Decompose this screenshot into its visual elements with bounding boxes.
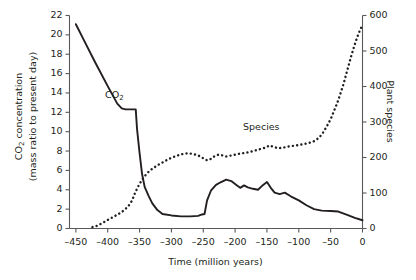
- co2-curve-label: CO2: [105, 89, 124, 100]
- left-axis-title-rest: concentration: [13, 73, 24, 142]
- left-axis-tick-label: 22: [30, 9, 63, 20]
- left-axis-title: CO2 concentration (mass ratio to present…: [13, 22, 38, 212]
- chart-figure: 0246810121416182022 0100200300400500600 …: [0, 0, 416, 280]
- right-axis-tick-label: 100: [370, 187, 388, 198]
- right-axis-tick-label: 0: [370, 222, 376, 233]
- species-series-line: [92, 25, 362, 227]
- left-axis-title-line2: (mass ratio to present day): [26, 22, 38, 212]
- bottom-axis-ticks: [76, 229, 363, 233]
- species-curve-label: Species: [243, 121, 280, 132]
- left-axis-title-co2: CO: [13, 146, 24, 160]
- left-axis-title-subscript: 2: [18, 142, 26, 146]
- axis-lines: [70, 16, 363, 229]
- x-axis-tick-label: 0: [343, 236, 383, 247]
- x-axis-title: Time (million years): [69, 256, 362, 267]
- left-axis-ticks: [66, 16, 70, 229]
- right-axis-tick-label: 600: [370, 9, 388, 20]
- right-axis-ticks: [363, 16, 367, 229]
- co2-series-line: [76, 24, 363, 220]
- right-axis-title: Plant species: [385, 52, 396, 172]
- left-axis-tick-label: 0: [30, 222, 63, 233]
